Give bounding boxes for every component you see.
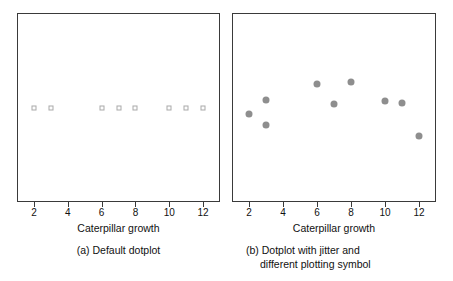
data-point-marker: [314, 80, 321, 87]
data-point-marker: [245, 111, 252, 118]
data-point-marker: [167, 105, 172, 110]
subcaption-b: (b) Dotplot with jitter and different pl…: [246, 243, 436, 271]
x-tick-label: 4: [65, 207, 71, 219]
x-tick-label: 4: [280, 207, 286, 219]
panel-b-jitter-dotplot: [232, 13, 436, 202]
x-axis-title-b: Caterpillar growth: [232, 222, 436, 235]
data-point-marker: [331, 100, 338, 107]
x-tick-label: 6: [99, 207, 105, 219]
data-point-marker: [382, 97, 389, 104]
data-point-marker: [133, 105, 138, 110]
x-axis-title-a: Caterpillar growth: [17, 222, 220, 235]
plot-area-a: [17, 13, 220, 202]
x-tick-label: 10: [164, 207, 175, 219]
x-tick-label: 2: [246, 207, 252, 219]
subcaption-b-line2: different plotting symbol: [246, 257, 436, 271]
data-point-marker: [399, 99, 406, 106]
data-point-marker: [348, 78, 355, 85]
data-point-marker: [116, 105, 121, 110]
subcaption-a: (a) Default dotplot: [17, 243, 220, 257]
x-tick-label: 2: [31, 207, 37, 219]
panel-a-default-dotplot: [17, 13, 220, 202]
dotplot-figure: 24681012 Caterpillar growth (a) Default …: [0, 0, 453, 281]
x-tick-label: 6: [314, 207, 320, 219]
x-tick-label: 8: [348, 207, 354, 219]
x-axis-b: 24681012: [232, 202, 436, 224]
x-tick-label: 12: [413, 207, 424, 219]
data-point-marker: [99, 105, 104, 110]
data-point-marker: [416, 132, 423, 139]
x-axis-a: 24681012: [17, 202, 220, 224]
data-point-marker: [31, 105, 36, 110]
subcaption-b-line1: (b) Dotplot with jitter and: [246, 244, 360, 256]
x-tick-label: 12: [198, 207, 209, 219]
data-point-marker: [48, 105, 53, 110]
data-point-marker: [201, 105, 206, 110]
data-point-marker: [262, 96, 269, 103]
data-point-marker: [184, 105, 189, 110]
plot-area-b: [232, 13, 436, 202]
x-tick-label: 8: [133, 207, 139, 219]
data-point-marker: [262, 122, 269, 129]
x-tick-label: 10: [379, 207, 390, 219]
